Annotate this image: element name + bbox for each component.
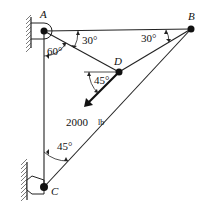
joint-d [116,69,123,76]
angle-c-45: 45° [57,140,72,152]
truss-diagram: A B C D 30° 60° 30° 45° 45° 2000 lb [0,0,207,213]
wall-support-c [21,159,44,201]
member-ab [44,29,191,31]
joint-a [41,28,48,35]
angle-b-30: 30° [141,32,156,44]
joint-b [188,26,195,33]
joint-c [40,183,48,191]
label-c: C [51,185,59,197]
angle-a-60: 60° [47,45,62,57]
angle-d-45: 45° [94,74,109,86]
angle-a-30: 30° [82,34,97,46]
label-a: A [39,8,47,20]
load-unit: lb [98,118,104,127]
members [44,29,191,187]
load-value: 2000 [66,116,89,128]
label-b: B [188,10,195,22]
label-d: D [113,55,122,67]
member-cb [44,29,191,187]
